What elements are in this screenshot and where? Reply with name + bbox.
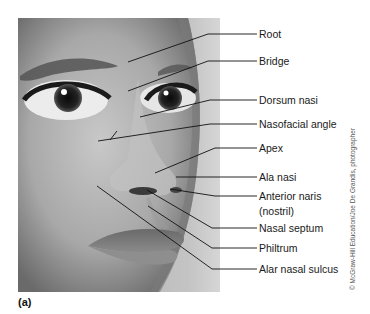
label-bridge: Bridge xyxy=(259,55,289,67)
label-apex: Apex xyxy=(259,142,283,154)
leader-root xyxy=(128,34,257,62)
label-nostril: (nostril) xyxy=(259,205,294,217)
leader-philtrum xyxy=(148,206,257,248)
label-philtrum: Philtrum xyxy=(259,242,298,254)
leader-dorsum-nasi xyxy=(140,100,257,117)
leader-apex xyxy=(155,148,257,173)
leader-alar-nasal-sulcus xyxy=(97,186,257,269)
label-root: Root xyxy=(259,28,281,40)
leader-anterior-naris xyxy=(170,189,257,196)
label-ala-nasi: Ala nasi xyxy=(259,171,296,183)
label-anterior-naris: Anterior naris xyxy=(259,190,321,202)
panel-label: (a) xyxy=(18,296,31,308)
leader-nasofacial-angle xyxy=(98,124,257,141)
label-nasofacial-angle: Nasofacial angle xyxy=(259,118,337,130)
label-alar-nasal-sulcus: Alar nasal sulcus xyxy=(259,263,338,275)
leader-bridge xyxy=(128,61,257,91)
label-dorsum-nasi: Dorsum nasi xyxy=(259,94,318,106)
label-nasal-septum: Nasal septum xyxy=(259,222,323,234)
photo-credit: © McGraw-Hill Education/Joe De Grandis, … xyxy=(349,128,356,290)
